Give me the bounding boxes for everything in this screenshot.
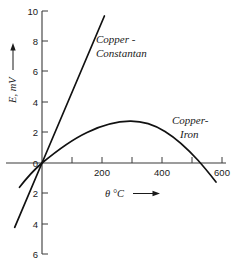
x-tick-label-group: 200 400 600: [94, 167, 230, 178]
y-axis-title: E, mV: [7, 76, 18, 104]
y-tick-label-2: 2: [33, 127, 38, 138]
right-arrow-icon: [153, 191, 161, 196]
x-axis-title: θ °C: [105, 188, 125, 199]
y-tick-label-group: 10 8 6 4 2 0 2 4 6: [27, 6, 38, 260]
chart-screenshot: 10 8 6 4 2 0 2 4 6 200 400 600: [0, 0, 235, 265]
up-arrow-icon: [10, 43, 15, 51]
x-axis-title-group: θ °C: [105, 188, 160, 199]
y-tick-label-minus-2: 2: [33, 188, 38, 199]
copper-iron-label-line1: Copper-: [172, 114, 209, 126]
copper-constantan-label-line1: Copper -: [96, 33, 136, 45]
y-tick-group: [42, 11, 48, 254]
copper-iron-label-line2: Iron: [179, 128, 199, 140]
y-tick-label-8: 8: [33, 36, 38, 47]
annotation-copper-iron: Copper- Iron: [172, 114, 209, 140]
y-tick-label-6: 6: [33, 66, 38, 77]
copper-constantan-label-line2: Constantan: [96, 47, 147, 59]
y-axis-title-group: E, mV: [7, 43, 18, 104]
y-tick-label-4: 4: [33, 97, 38, 108]
copper-constantan-curve: [15, 16, 105, 227]
y-tick-label-minus-4: 4: [33, 219, 38, 230]
x-tick-label-400: 400: [154, 167, 170, 178]
y-tick-label-10: 10: [27, 6, 38, 17]
series-copper-constantan: [15, 16, 105, 227]
thermocouple-emf-chart: 10 8 6 4 2 0 2 4 6 200 400 600: [0, 0, 235, 265]
annotation-copper-constantan: Copper - Constantan: [96, 33, 147, 59]
x-tick-label-600: 600: [214, 167, 230, 178]
y-tick-label-minus-6: 6: [33, 249, 38, 260]
x-tick-label-200: 200: [94, 167, 110, 178]
